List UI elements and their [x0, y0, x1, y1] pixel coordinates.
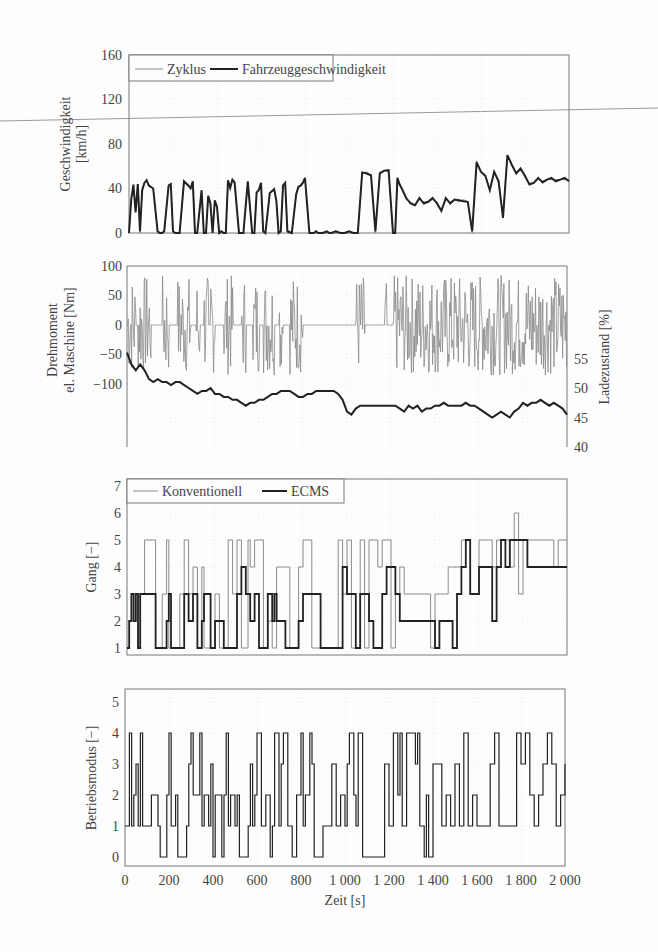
mode-xtick: 1 000: [329, 873, 361, 888]
mode-y-label: Betriebsmodus [−]: [84, 726, 99, 831]
legend-label-fahrzeug: Fahrzeuggeschwindigkeit: [242, 62, 386, 77]
mode-panel: 5 4 3 2 1 0 02004006008001 0001 2001 400…: [84, 689, 581, 908]
gear-ylabel: Gang [−]: [84, 541, 99, 592]
mode-ytick: 3: [112, 757, 119, 772]
soc-ytick: 50: [574, 381, 588, 396]
speed-ytick: 120: [101, 92, 122, 107]
speed-ylabel-line1: Geschwindigkeit: [58, 96, 73, 191]
gear-ytick: 4: [114, 560, 121, 575]
gear-y-ticks: 7 6 5 4 3 2 1: [114, 479, 121, 656]
scan-artifact-line: [0, 108, 658, 121]
mode-ytick: 0: [112, 850, 119, 865]
gear-ytick: 1: [114, 641, 121, 656]
speed-ytick: 40: [108, 181, 122, 196]
torque-y-label: Drehmoment el. Maschine [Nm]: [45, 287, 77, 392]
speed-y-ticks: 160 120 80 40 0: [101, 48, 122, 241]
mode-ylabel: Betriebsmodus [−]: [84, 726, 99, 831]
torque-ytick: −100: [93, 377, 122, 392]
speed-legend: Zyklus Fahrzeuggeschwindigkeit: [129, 55, 386, 81]
torque-ylabel-line2: el. Maschine [Nm]: [62, 287, 77, 392]
mode-x-ticks: 02004006008001 0001 2001 4001 6001 8002 …: [122, 873, 581, 888]
mode-xtick: 1 600: [461, 873, 493, 888]
gear-ytick: 6: [114, 506, 121, 521]
speed-ylabel-line2: [km/h]: [74, 125, 89, 163]
mode-ytick: 2: [112, 788, 119, 803]
gear-ytick: 3: [114, 587, 121, 602]
soc-ytick: 55: [574, 352, 588, 367]
speed-y-label: Geschwindigkeit [km/h]: [58, 96, 89, 191]
mode-xtick: 600: [247, 873, 268, 888]
mode-xtick: 0: [122, 873, 129, 888]
mode-ytick: 5: [112, 695, 119, 710]
soc-ytick: 45: [574, 411, 588, 426]
mode-xtick: 1 400: [417, 873, 449, 888]
legend-label-zyklus: Zyklus: [167, 62, 206, 77]
mode-xtick: 400: [203, 873, 224, 888]
figure-canvas: 160 120 80 40 0 Geschwindigkeit [km/h] Z…: [0, 0, 658, 952]
legend-label-konventionell: Konventionell: [162, 484, 242, 499]
mode-ytick: 4: [112, 726, 119, 741]
gear-legend: Konventionell ECMS: [127, 479, 344, 503]
mode-xtick: 800: [291, 873, 312, 888]
mode-xtick: 1 800: [505, 873, 537, 888]
legend-label-ecms: ECMS: [291, 484, 329, 499]
mode-y-ticks: 5 4 3 2 1 0: [112, 695, 119, 865]
speed-panel: 160 120 80 40 0 Geschwindigkeit [km/h] Z…: [58, 48, 569, 241]
gear-ytick: 2: [114, 614, 121, 629]
mode-xtick: 200: [159, 873, 180, 888]
soc-y-label: Ladezustand [%]: [597, 309, 612, 404]
soc-y-ticks: 55 50 45 40: [574, 352, 588, 455]
torque-ytick: 100: [101, 259, 122, 274]
mode-xtick: 1 200: [373, 873, 405, 888]
speed-ytick: 0: [115, 226, 122, 241]
gear-ytick: 5: [114, 533, 121, 548]
torque-y-ticks: 100 50 0 −50 −100: [93, 259, 122, 392]
torque-ytick: 50: [108, 288, 122, 303]
series-betriebsmodus: [125, 733, 565, 857]
torque-ylabel-line1: Drehmoment: [45, 303, 60, 377]
speed-ytick: 160: [101, 48, 122, 63]
series-fahrzeuggeschwindigkeit: [129, 155, 569, 233]
torque-ytick: 0: [115, 318, 122, 333]
gear-y-label: Gang [−]: [84, 541, 99, 592]
gear-panel: 7 6 5 4 3 2 1 Gang [−] Konventionell ECM…: [84, 479, 567, 656]
gear-ytick: 7: [114, 479, 121, 494]
torque-ytick: −50: [100, 347, 122, 362]
torque-panel: 100 50 0 −50 −100 55 50 45 40 Drehmoment…: [45, 259, 612, 455]
mode-ytick: 1: [112, 819, 119, 834]
soc-ytick: 40: [574, 440, 588, 455]
mode-xtick: 2 000: [549, 873, 581, 888]
soc-ylabel: Ladezustand [%]: [597, 309, 612, 404]
x-axis-label: Zeit [s]: [325, 893, 366, 908]
speed-ytick: 80: [108, 137, 122, 152]
